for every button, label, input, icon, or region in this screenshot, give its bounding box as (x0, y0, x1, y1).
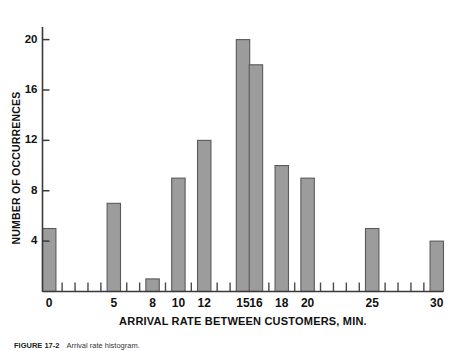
bar (172, 178, 185, 291)
y-axis-title: NUMBER OF OCCURRENCES (10, 92, 22, 245)
y-tick-label: 20 (25, 33, 38, 45)
figure-caption-id: FIGURE 17-2 (14, 341, 59, 350)
histogram-chart: 48121620 0581012151618202530 ARRIVAL RAT… (0, 0, 455, 351)
figure-container: 48121620 0581012151618202530 ARRIVAL RAT… (0, 0, 455, 351)
bar (430, 241, 443, 291)
chart-background (0, 0, 455, 351)
x-tick-label: 8 (149, 296, 156, 310)
x-axis-title: ARRIVAL RATE BETWEEN CUSTOMERS, MIN. (119, 315, 367, 327)
x-tick-label: 0 (46, 296, 53, 310)
x-tick-label: 18 (275, 296, 289, 310)
bar (249, 65, 262, 292)
figure-caption-text: Arrival rate histogram. (66, 341, 139, 350)
bar (275, 166, 288, 292)
y-tick-label: 16 (25, 83, 38, 95)
figure-caption: FIGURE 17-2Arrival rate histogram. (14, 341, 140, 350)
bar (236, 40, 249, 292)
x-tick-label: 30 (430, 296, 444, 310)
x-tick-label: 16 (249, 296, 263, 310)
x-tick-label: 12 (198, 296, 212, 310)
bar (365, 229, 378, 292)
y-tick-label: 12 (25, 133, 38, 145)
bar (107, 203, 120, 291)
x-tick-label: 15 (236, 296, 250, 310)
x-tick-label: 10 (172, 296, 186, 310)
y-tick-label: 8 (31, 184, 38, 196)
x-tick-label: 20 (301, 296, 315, 310)
x-tick-label: 5 (110, 296, 117, 310)
bar (43, 229, 56, 292)
bar (198, 140, 211, 291)
x-tick-label: 25 (366, 296, 380, 310)
y-tick-label: 4 (31, 234, 38, 246)
bar (146, 279, 159, 292)
bar (301, 178, 314, 291)
